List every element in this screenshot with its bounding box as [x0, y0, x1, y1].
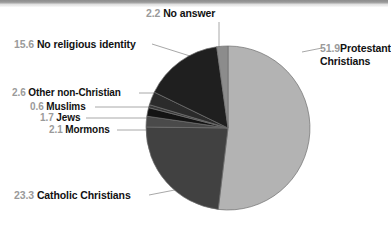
- slice-label-protestant-christians: 51.9Protestant Christians: [320, 42, 386, 67]
- slice-text-no-answer: No answer: [163, 7, 215, 19]
- slice-value-other-non-christian: 2.6: [12, 87, 26, 98]
- slice-label-no-religious-identity: 15.6 No religious identity: [14, 38, 136, 51]
- slice-text-catholic-christians: Catholic Christians: [37, 189, 131, 201]
- slice-value-jews: 1.7: [40, 112, 54, 123]
- slice-value-mormons: 2.1: [49, 124, 63, 135]
- slice-label-mormons: 2.1 Mormons: [49, 124, 110, 137]
- slice-label-no-answer: 2.2 No answer: [146, 7, 215, 20]
- slice-label-catholic-christians: 23.3 Catholic Christians: [14, 189, 131, 202]
- slice-text-protestant-christians-line1: Protestant: [340, 42, 391, 54]
- slice-text-no-religious-identity: No religious identity: [37, 38, 136, 50]
- slice-text-muslims: Muslims: [46, 101, 85, 112]
- slice-text-protestant-christians-line2: Christians: [320, 55, 386, 68]
- slice-value-muslims: 0.6: [30, 101, 44, 112]
- pie-slice-catholic-christians: [146, 127, 228, 209]
- slice-value-catholic-christians: 23.3: [14, 189, 34, 201]
- slice-text-mormons: Mormons: [65, 124, 109, 135]
- pie-slice-protestant-christians: [218, 46, 310, 210]
- leader-line-protestant: [302, 48, 322, 52]
- slice-value-protestant-christians: 51.9: [320, 42, 340, 54]
- slice-text-other-non-christian: Other non-Christian: [28, 87, 121, 98]
- slice-label-other-non-christian: 2.6 Other non-Christian: [12, 87, 121, 100]
- slice-label-jews: 1.7 Jews: [40, 112, 80, 125]
- slice-text-jews: Jews: [56, 112, 80, 123]
- slice-value-no-religious-identity: 15.6: [14, 38, 34, 50]
- pie-slices: [146, 46, 310, 210]
- slice-value-no-answer: 2.2: [146, 7, 160, 19]
- leader-line-no-religious-identity: [152, 44, 190, 56]
